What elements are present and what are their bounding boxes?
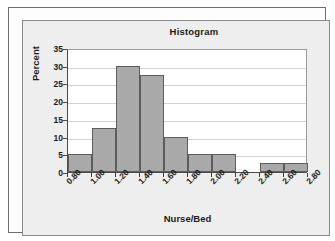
histogram-bar — [140, 75, 164, 172]
y-tick-label: 20 — [54, 97, 63, 107]
y-tick-label: 35 — [54, 44, 63, 54]
histogram-bar — [188, 154, 212, 172]
histogram-bar — [92, 128, 116, 172]
y-tick-label: 30 — [54, 62, 63, 72]
histogram-chart-panel: Histogram Percent 35302520151050 0.801.0… — [22, 20, 330, 236]
plot-area — [67, 49, 307, 173]
y-axis-title: Percent — [30, 46, 41, 81]
chart-title: Histogram — [23, 26, 329, 37]
y-axis-ticks: 35302520151050 — [45, 43, 67, 179]
histogram-bars — [68, 50, 306, 172]
figure-outer-frame: Histogram Percent 35302520151050 0.801.0… — [8, 7, 326, 233]
y-tick-label: 15 — [54, 115, 63, 125]
x-axis-title: Nurse/Bed — [67, 213, 308, 224]
histogram-bar — [212, 154, 236, 172]
histogram-bar — [116, 66, 140, 172]
y-tick-label: 10 — [54, 133, 63, 143]
histogram-bar — [164, 137, 188, 172]
screenshot-root: Histogram Percent 35302520151050 0.801.0… — [0, 0, 335, 241]
y-tick-label: 25 — [54, 79, 63, 89]
chart-title-text: Histogram — [170, 26, 219, 37]
histogram-bar — [68, 154, 92, 172]
